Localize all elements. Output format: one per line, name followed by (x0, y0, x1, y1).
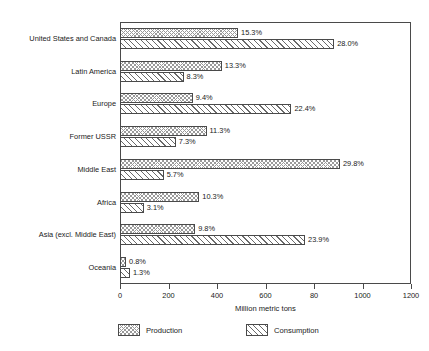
x-axis-tick-label: 200 (149, 291, 189, 300)
bar-production (120, 93, 193, 103)
x-axis-tick (314, 284, 315, 289)
x-axis-tick-label: 600 (246, 291, 286, 300)
bar-value-label: 5.7% (167, 170, 184, 180)
legend-swatch-production (118, 324, 140, 336)
x-axis-title: Million metric tons (120, 304, 411, 313)
bar-value-label: 1.3% (133, 268, 150, 278)
x-axis-tick-label: 0 (100, 291, 140, 300)
x-axis-tick (363, 284, 364, 289)
bar-value-label: 28.0% (337, 39, 358, 49)
category-label: Latin America (4, 67, 116, 76)
bar-production (120, 126, 207, 136)
x-axis-tick (266, 284, 267, 289)
legend-label: Production (146, 326, 182, 335)
bar-consumption (120, 268, 130, 278)
bar-production (120, 159, 340, 169)
bar-value-label: 8.3% (187, 72, 204, 82)
bar-chart: United States and CanadaLatin AmericaEur… (0, 0, 429, 351)
category-label: Middle East (4, 165, 116, 174)
bar-value-label: 3.1% (147, 203, 164, 213)
category-label: Oceania (4, 263, 116, 272)
bar-consumption (120, 137, 176, 147)
chart-legend: ProductionConsumption (118, 324, 358, 344)
bar-value-label: 15.3% (241, 28, 262, 38)
bar-value-label: 29.8% (343, 159, 364, 169)
category-label: Africa (4, 198, 116, 207)
bar-value-label: 9.8% (198, 224, 215, 234)
bar-consumption (120, 104, 291, 114)
bar-consumption (120, 203, 144, 213)
bar-value-label: 0.8% (129, 257, 146, 267)
category-label: Europe (4, 99, 116, 108)
bar-consumption (120, 72, 184, 82)
bar-production (120, 257, 126, 267)
x-axis-tick (217, 284, 218, 289)
x-axis-tick (120, 284, 121, 289)
category-label: United States and Canada (4, 34, 116, 43)
category-label: Asia (excl. Middle East) (4, 230, 116, 239)
legend-label: Consumption (274, 326, 319, 335)
category-label: Former USSR (4, 132, 116, 141)
bar-value-label: 23.9% (308, 235, 329, 245)
legend-item: Production (118, 324, 182, 336)
bar-consumption (120, 170, 164, 180)
bar-production (120, 61, 222, 71)
bar-value-label: 7.3% (179, 137, 196, 147)
bar-value-label: 9.4% (196, 93, 213, 103)
x-axis-tick (169, 284, 170, 289)
bar-production (120, 224, 195, 234)
bar-value-label: 11.3% (210, 126, 230, 136)
bar-production (120, 28, 238, 38)
legend-swatch-consumption (246, 324, 268, 336)
x-axis-tick-label: 1000 (343, 291, 383, 300)
x-axis-tick (411, 284, 412, 289)
bar-value-label: 10.3% (202, 192, 223, 202)
legend-item: Consumption (246, 324, 319, 336)
x-axis-tick-label: 1200 (391, 291, 429, 300)
x-axis-tick-label: 400 (197, 291, 237, 300)
bar-value-label: 22.4% (294, 104, 315, 114)
x-axis-tick-label: 80 (294, 291, 334, 300)
bar-production (120, 192, 199, 202)
bar-consumption (120, 39, 334, 49)
bar-value-label: 13.3% (225, 61, 246, 71)
bar-consumption (120, 235, 305, 245)
